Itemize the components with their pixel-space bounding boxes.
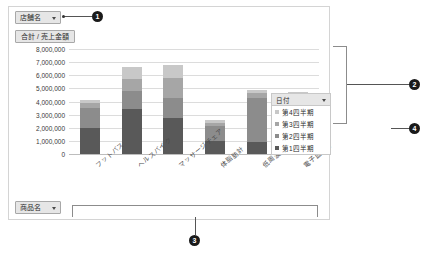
legend-item-label: 第3四半期 (282, 119, 314, 129)
y-tick-label: 8,000,000 (36, 46, 65, 53)
bar-segment[interactable] (80, 128, 100, 154)
bar-segment[interactable] (163, 65, 183, 78)
gridline (69, 62, 319, 63)
chevron-down-icon[interactable] (51, 14, 58, 21)
value-field-button[interactable]: 合計 / 売上金額 (15, 30, 75, 43)
legend-item[interactable]: 第1四半期 (272, 142, 330, 154)
callout-marker-4: 4 (409, 123, 420, 134)
y-tick-label: 1,000,000 (36, 137, 65, 144)
y-tick-label: 6,000,000 (36, 72, 65, 79)
bar-segment[interactable] (80, 108, 100, 128)
callout-1-anchor-dot (62, 15, 65, 18)
y-axis: 8,000,000 7,000,000 6,000,000 5,000,000 … (9, 49, 65, 154)
gridline (69, 75, 319, 76)
bar-segment[interactable] (122, 91, 142, 109)
callout-2-bracket (333, 46, 347, 124)
y-tick-label: 4,000,000 (36, 98, 65, 105)
callout-3-leader-line (195, 217, 196, 235)
legend-panel[interactable]: 日付 第4四半期第3四半期第2四半期第1四半期 (271, 93, 331, 155)
callout-marker-1: 1 (92, 11, 103, 22)
pivot-chart-frame[interactable]: 8,000,000 7,000,000 6,000,000 5,000,000 … (8, 6, 330, 220)
bar-segment[interactable] (247, 142, 267, 154)
callout-2-leader-line (347, 84, 409, 85)
y-tick-label: 0 (61, 151, 65, 158)
legend-item-label: 第2四半期 (282, 131, 314, 141)
bar-segment[interactable] (163, 98, 183, 118)
bar-column[interactable] (80, 100, 100, 154)
legend-color-swatch (275, 134, 279, 138)
chevron-down-icon[interactable] (51, 204, 58, 211)
y-tick-label: 5,000,000 (36, 85, 65, 92)
callout-marker-3: 3 (189, 235, 200, 246)
legend-color-swatch (275, 110, 279, 114)
callout-3-bracket (72, 205, 318, 217)
bar-column[interactable] (247, 90, 267, 154)
legend-color-swatch (275, 146, 279, 150)
y-tick-label: 3,000,000 (36, 111, 65, 118)
legend-item-label: 第1四半期 (282, 143, 314, 153)
filter-button-store[interactable]: 店舗名 (15, 11, 61, 24)
legend-item[interactable]: 第4四半期 (272, 106, 330, 118)
bar-column[interactable] (122, 67, 142, 154)
bar-segment[interactable] (247, 98, 267, 143)
filter-button-product-label: 商品名 (20, 202, 48, 213)
bar-segment[interactable] (122, 109, 142, 154)
y-tick-label: 2,000,000 (36, 124, 65, 131)
bar-segment[interactable] (163, 78, 183, 98)
y-tick-label: 7,000,000 (36, 59, 65, 66)
bar-segment[interactable] (122, 67, 142, 79)
callout-4-leader-line (391, 128, 409, 129)
gridline (69, 49, 319, 50)
legend-item[interactable]: 第3四半期 (272, 118, 330, 130)
filter-button-product[interactable]: 商品名 (15, 201, 61, 214)
gridline (69, 88, 319, 89)
legend-items: 第4四半期第3四半期第2四半期第1四半期 (272, 106, 330, 154)
legend-title: 日付 (276, 95, 318, 105)
legend-item-label: 第4四半期 (282, 107, 314, 117)
callout-1-leader-line (64, 16, 92, 17)
filter-button-store-label: 店舗名 (20, 12, 48, 23)
bar-segment[interactable] (122, 79, 142, 91)
legend-color-swatch (275, 122, 279, 126)
callout-marker-2: 2 (409, 79, 420, 90)
legend-field-button[interactable]: 日付 (272, 94, 330, 106)
chevron-down-icon[interactable] (321, 96, 328, 103)
legend-item[interactable]: 第2四半期 (272, 130, 330, 142)
